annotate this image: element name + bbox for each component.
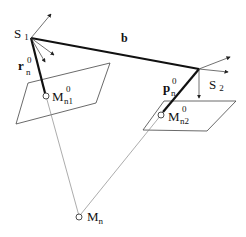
ray-right xyxy=(81,115,161,214)
ray-left xyxy=(46,96,79,216)
label-mn1-sup: 0 xyxy=(66,84,71,94)
baseline-b xyxy=(31,38,199,69)
label-r-sub: n xyxy=(26,67,31,77)
label-mn1: M xyxy=(52,89,64,104)
label-r: r xyxy=(18,58,24,73)
s2-axis-right-icon xyxy=(199,69,228,72)
label-r-sup: 0 xyxy=(27,55,32,65)
label-p-sub: n xyxy=(171,88,176,98)
stereo-geometry-diagram: S1 b r 0 n M 0 n1 p 0 n S2 M 0 n2 Mn xyxy=(0,0,246,237)
label-b: b xyxy=(121,31,128,45)
point-mn2-icon xyxy=(158,112,164,118)
s2-axis-up-icon xyxy=(199,57,230,69)
s1-axis-up-icon xyxy=(31,14,51,38)
label-mn: Mn xyxy=(87,209,104,226)
label-p: p xyxy=(163,80,170,95)
point-mn-icon xyxy=(76,214,82,220)
right-image-plane xyxy=(143,101,236,131)
label-mn2: M xyxy=(168,109,180,124)
label-mn2-sub: n2 xyxy=(180,116,189,126)
label-mn1-sub: n1 xyxy=(64,96,73,106)
label-p-sup: 0 xyxy=(172,76,177,86)
label-mn2-sup: 0 xyxy=(182,104,187,114)
vector-r xyxy=(31,38,45,93)
point-mn1-icon xyxy=(43,93,49,99)
label-s2: S2 xyxy=(209,77,224,93)
label-s1: S1 xyxy=(14,26,29,42)
